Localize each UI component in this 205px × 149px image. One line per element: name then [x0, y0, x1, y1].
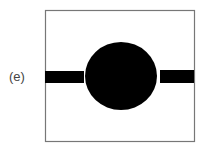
diagram-panel	[0, 0, 205, 149]
center-circle	[85, 42, 157, 110]
left-bar	[45, 71, 84, 83]
right-bar	[160, 70, 194, 83]
